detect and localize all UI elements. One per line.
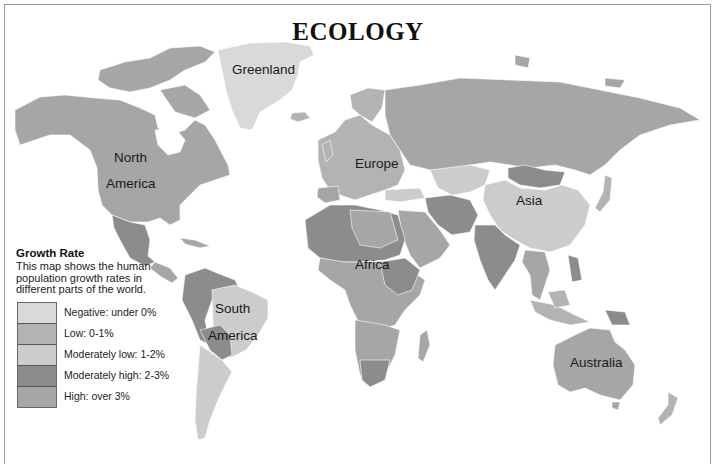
legend-item-negative: Negative: under 0% — [64, 304, 169, 325]
region-southeast-asia — [522, 250, 550, 300]
label-south-america-line2: America — [208, 328, 258, 343]
label-asia: Asia — [516, 193, 542, 208]
legend-description: This map shows the human population grow… — [16, 261, 176, 296]
legend-item-low: Low: 0-1% — [64, 325, 169, 346]
label-greenland: Greenland — [232, 62, 295, 77]
swatch-high — [18, 387, 56, 407]
swatch-negative — [18, 303, 56, 324]
label-north-america-line2: America — [106, 176, 156, 191]
legend-swatches — [17, 302, 57, 408]
region-south-africa — [360, 360, 390, 387]
region-spain — [317, 186, 340, 203]
label-australia: Australia — [570, 355, 623, 370]
label-south-america-line1: South — [215, 301, 250, 316]
region-new-guinea — [605, 310, 630, 325]
legend-item-high: High: over 3% — [64, 388, 169, 409]
region-southern-cone — [195, 345, 232, 440]
region-russia — [385, 78, 700, 175]
region-mongolia — [508, 165, 565, 188]
region-philippines — [568, 255, 582, 282]
legend-item-moderately-high: Moderately high: 2-3% — [64, 367, 169, 388]
label-europe: Europe — [355, 156, 399, 171]
swatch-moderately-low — [18, 345, 56, 366]
region-iceland — [290, 112, 310, 122]
region-turkey — [385, 188, 425, 202]
label-africa: Africa — [355, 257, 390, 272]
region-central-asia — [430, 165, 490, 195]
region-arctic-islands — [98, 46, 215, 92]
swatch-low — [18, 324, 56, 345]
legend-item-moderately-low: Moderately low: 1-2% — [64, 346, 169, 367]
label-north-america-line1: North — [114, 150, 147, 165]
legend: Growth Rate This map shows the human pop… — [16, 247, 186, 296]
region-japan — [595, 175, 612, 212]
region-madagascar — [418, 330, 430, 362]
swatch-moderately-high — [18, 366, 56, 387]
region-tasmania — [612, 402, 620, 410]
region-new-zealand — [658, 392, 678, 425]
legend-title: Growth Rate — [16, 247, 186, 259]
legend-items: Negative: under 0% Low: 0-1% Moderately … — [64, 304, 169, 409]
